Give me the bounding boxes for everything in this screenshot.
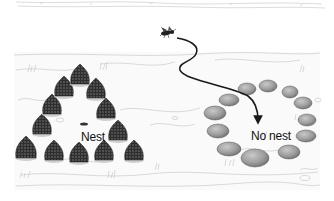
wasp-icon (160, 26, 176, 38)
illustration (0, 0, 334, 201)
top-ground-strip (16, 2, 325, 8)
stone (294, 97, 312, 109)
stone (298, 114, 316, 126)
stone (217, 142, 241, 156)
nest-hole (80, 122, 88, 125)
ground-area (14, 52, 321, 190)
nest-label: Nest (81, 130, 105, 144)
stone (204, 106, 226, 120)
stone (207, 124, 229, 138)
stone (296, 130, 316, 142)
stone (259, 80, 277, 92)
stone (219, 94, 239, 106)
stone (282, 86, 298, 98)
stone (278, 145, 300, 159)
stone (241, 149, 269, 167)
no-nest-label: No nest (251, 129, 291, 143)
